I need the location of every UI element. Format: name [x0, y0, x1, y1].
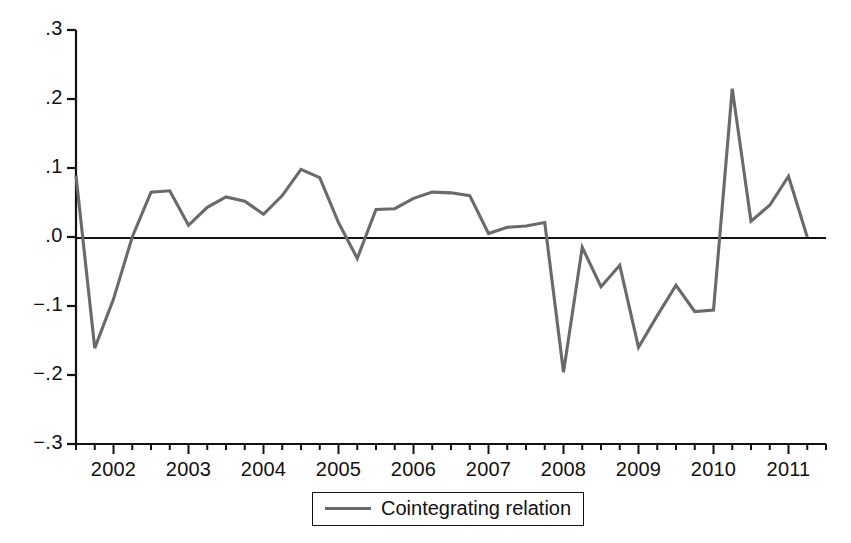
- x-tick-label: 2008: [524, 458, 604, 481]
- legend-line-swatch: [325, 507, 371, 510]
- y-tick-label: .2: [15, 86, 63, 109]
- chart-container: .3.2.1.0−.1−.2−.3 2002200320042005200620…: [0, 0, 851, 543]
- x-tick-label: 2004: [224, 458, 304, 481]
- y-tick-label: −.3: [15, 431, 63, 454]
- y-tick-label: −.1: [15, 293, 63, 316]
- chart-legend: Cointegrating relation: [312, 492, 584, 526]
- x-tick-marks: [76, 444, 826, 454]
- series-line-cointegrating-relation: [76, 89, 807, 373]
- x-tick-label: 2005: [299, 458, 379, 481]
- y-tick-label: −.2: [15, 362, 63, 385]
- x-tick-label: 2009: [599, 458, 679, 481]
- x-tick-label: 2007: [449, 458, 529, 481]
- data-series-group: [76, 89, 807, 373]
- y-tick-label: .1: [15, 155, 63, 178]
- axis-group: [76, 30, 826, 444]
- y-tick-label: .3: [15, 17, 63, 40]
- x-tick-label: 2006: [374, 458, 454, 481]
- x-tick-label: 2003: [149, 458, 229, 481]
- y-tick-marks: [67, 30, 76, 444]
- y-tick-label: .0: [15, 224, 63, 247]
- x-tick-label: 2010: [674, 458, 754, 481]
- x-tick-label: 2002: [74, 458, 154, 481]
- x-tick-label: 2011: [749, 458, 829, 481]
- legend-label-cointegrating-relation: Cointegrating relation: [381, 497, 571, 520]
